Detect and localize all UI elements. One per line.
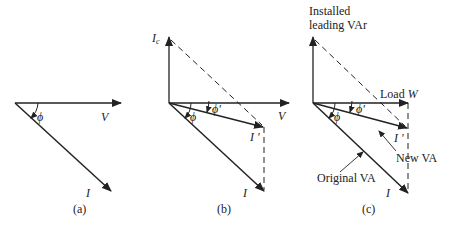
new-current-label: I ' [393, 131, 404, 145]
original-va-label: Original VA [317, 171, 376, 185]
voltage-label: V [278, 109, 287, 123]
caption-b: (b) [217, 202, 231, 216]
voltage-label: V [101, 110, 110, 124]
new-current-label: I ' [249, 130, 260, 144]
current-label: I [385, 186, 391, 200]
installed-var-label-line1: Installed [309, 4, 350, 18]
panel-a: ϕ V I (a) [15, 103, 121, 216]
panel-c: Installed leading VAr ϕ ϕ' Load W I ' Ne… [309, 4, 438, 216]
original-va-pointer [340, 152, 363, 172]
capacitor-current-label: Ic [151, 31, 160, 46]
phi-label: ϕ [334, 110, 340, 124]
current-phasor [15, 103, 111, 191]
panel-b: Ic ϕ ϕ' V I ' I (b) [151, 31, 289, 216]
power-factor-phasor-diagrams: ϕ V I (a) Ic ϕ ϕ' V I ' I (b) Installed … [0, 0, 453, 235]
phi-prime-label: ϕ' [356, 102, 365, 116]
current-label: I [85, 186, 91, 200]
installed-var-label-line2: leading VAr [309, 18, 367, 32]
current-label: I [242, 186, 248, 200]
phi-prime-label: ϕ' [212, 102, 221, 116]
caption-c: (c) [362, 202, 375, 216]
phi-label: ϕ [190, 110, 196, 124]
phi-label: ϕ [37, 110, 43, 124]
caption-a: (a) [73, 202, 86, 216]
new-va-label: New VA [396, 151, 438, 165]
current-phasor [169, 103, 264, 191]
load-watts-label: Load W [380, 87, 419, 101]
